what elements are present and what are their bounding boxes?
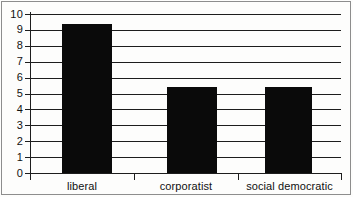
y-tick-label: 9 xyxy=(1,24,23,35)
x-tick-label: liberal xyxy=(30,180,134,192)
y-tick-label: 2 xyxy=(1,136,23,147)
y-axis-tick-labels: 10 9 8 7 6 5 4 3 2 1 0 xyxy=(0,0,23,197)
x-tick-label: corporatist xyxy=(134,180,238,192)
bar-chart-figure: 10 9 8 7 6 5 4 3 2 1 0 xyxy=(0,0,353,197)
y-axis-line xyxy=(30,12,31,175)
x-tick-label: social democratic xyxy=(238,180,341,192)
y-tick-label: 6 xyxy=(1,72,23,83)
y-tick-label: 3 xyxy=(1,120,23,131)
y-tick-label: 7 xyxy=(1,56,23,67)
bars-layer xyxy=(30,14,341,173)
y-tick-label: 10 xyxy=(1,9,23,20)
x-axis-tick xyxy=(134,173,135,180)
bar xyxy=(62,24,112,173)
bar xyxy=(265,87,312,173)
x-axis-line xyxy=(30,173,341,174)
x-axis-tick xyxy=(341,173,342,180)
x-axis-tick xyxy=(238,173,239,180)
y-tick-label: 1 xyxy=(1,152,23,163)
bar xyxy=(167,87,217,173)
y-tick-label: 4 xyxy=(1,104,23,115)
x-axis-tick xyxy=(30,173,31,180)
y-tick-label: 8 xyxy=(1,40,23,51)
y-tick-label: 5 xyxy=(1,88,23,99)
y-tick-label: 0 xyxy=(1,168,23,179)
